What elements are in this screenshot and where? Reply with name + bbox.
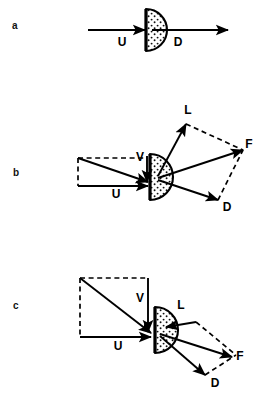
half-disc-outline-c [155,307,178,353]
figure-diagram: a b c UDUVLFDUVLFD [0,0,267,403]
figure-caption [8,396,260,403]
vector-label-L-c: L [177,298,184,312]
dashed-par-L-F-c [196,322,236,355]
panel-label-a: a [12,21,18,31]
panel-label-b: b [13,168,19,178]
vector-diagram-canvas: UDUVLFDUVLFD [0,0,267,403]
panel-b: UVLFD [78,103,253,214]
vector-label-L-b: L [184,103,191,117]
panel-c: UVLFD [80,278,244,390]
half-disc-body-c [155,307,178,353]
vector-label-V-c: V [136,291,144,305]
vector-label-D-c: D [211,376,220,390]
vector-label-D-a: D [174,35,183,49]
panel-a: UD [88,9,228,51]
vector-label-F-b: F [245,137,252,151]
vector-label-U-a: U [118,35,127,49]
panels-group: UDUVLFDUVLFD [78,9,253,390]
vector-label-U-c: U [114,339,123,353]
dashed-par-D-F-c [205,355,236,375]
panel-label-c: c [13,301,19,311]
vector-label-V-b: V [136,150,144,164]
vector-label-U-b: U [112,187,121,201]
vector-resultant-c [80,278,151,333]
dashed-par-L-F-b [186,124,243,150]
vector-label-F-c: F [236,349,243,363]
vector-label-D-b: D [223,200,232,214]
